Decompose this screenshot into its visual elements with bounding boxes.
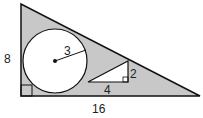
circle-center-dot xyxy=(53,59,57,63)
label-bottom-leg: 16 xyxy=(92,102,106,116)
diagram: 8 3 2 4 16 xyxy=(0,0,203,118)
label-radius: 3 xyxy=(64,44,71,58)
label-left-leg: 8 xyxy=(4,52,11,66)
label-small-base: 4 xyxy=(104,83,111,97)
label-small-height: 2 xyxy=(130,67,137,81)
